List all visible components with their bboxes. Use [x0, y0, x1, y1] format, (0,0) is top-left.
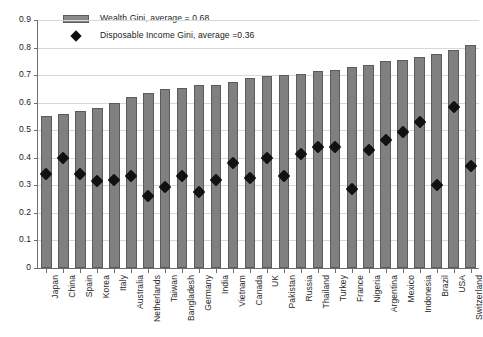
x-tick-mark [97, 269, 98, 273]
x-tick-mark [301, 269, 302, 273]
x-tick-label: Netherlands [152, 275, 162, 322]
x-tick-label: France [355, 275, 365, 302]
x-tick-mark [250, 269, 251, 273]
x-tick-label: Spain [84, 275, 94, 297]
y-tick-label: 0.2 [19, 207, 31, 217]
x-tick-label: Russia [304, 275, 314, 302]
x-axis-line [37, 268, 479, 269]
x-tick-mark [63, 269, 64, 273]
y-tick-label: 0.7 [19, 69, 31, 79]
x-tick-mark [80, 269, 81, 273]
x-tick-label: India [220, 275, 230, 294]
x-tick-mark [233, 269, 234, 273]
x-tick-mark [46, 269, 47, 273]
bar [126, 97, 137, 268]
y-tick-label: 0 [26, 262, 31, 272]
x-tick-mark [216, 269, 217, 273]
x-tick-mark [437, 269, 438, 273]
x-tick-label: China [67, 275, 77, 298]
bar [160, 89, 171, 268]
x-tick-label: Bangladesh [186, 275, 196, 321]
bar [465, 45, 476, 268]
x-tick-label: Korea [101, 275, 111, 298]
x-tick-label: Argentina [389, 275, 399, 312]
bar [448, 50, 459, 268]
bar [92, 108, 103, 268]
x-tick-label: Australia [135, 275, 145, 309]
x-tick-mark [267, 269, 268, 273]
y-tick-label: 0.6 [19, 97, 31, 107]
x-tick-mark [182, 269, 183, 273]
x-tick-mark [148, 269, 149, 273]
x-tick-mark [114, 269, 115, 273]
x-tick-mark [131, 269, 132, 273]
x-tick-label: Thailand [321, 275, 331, 308]
y-tick-label: 0.1 [19, 234, 31, 244]
y-tick-label: 0.4 [19, 152, 31, 162]
x-tick-mark [318, 269, 319, 273]
plot-area [38, 20, 479, 268]
y-tick-label: 0.3 [19, 179, 31, 189]
x-tick-label: Pakistan [287, 275, 297, 308]
x-tick-mark [199, 269, 200, 273]
y-tick-label: 0.9 [19, 14, 31, 24]
x-tick-label: Brazil [440, 275, 450, 297]
bar [143, 93, 154, 268]
x-tick-mark [335, 269, 336, 273]
bar [262, 76, 273, 268]
bar [228, 82, 239, 268]
x-tick-mark [369, 269, 370, 273]
y-tick-label: 0.5 [19, 124, 31, 134]
x-tick-mark [403, 269, 404, 273]
x-tick-mark [284, 269, 285, 273]
x-tick-label: Turkey [338, 275, 348, 301]
x-tick-label: Nigeria [372, 275, 382, 303]
x-tick-label: Italy [118, 275, 128, 291]
bar [330, 70, 341, 268]
x-tick-label: Japan [50, 275, 60, 299]
bar [296, 74, 307, 268]
x-tick-label: Vietnam [237, 275, 247, 307]
x-tick-mark [471, 269, 472, 273]
x-tick-label: USA [457, 275, 467, 293]
x-tick-label: Indonesia [423, 275, 433, 313]
x-tick-mark [454, 269, 455, 273]
x-tick-label: Taiwan [169, 275, 179, 302]
chart-page: Wealth Gini, average = 0.68 Disposable I… [0, 0, 483, 337]
x-tick-mark [420, 269, 421, 273]
bar [397, 60, 408, 268]
x-tick-label: UK [270, 275, 280, 287]
x-tick-mark [165, 269, 166, 273]
x-tick-label: Switzerland [474, 275, 483, 320]
bar [41, 116, 52, 268]
bar [58, 114, 69, 268]
bar [313, 71, 324, 268]
x-tick-mark [386, 269, 387, 273]
x-tick-mark [352, 269, 353, 273]
x-tick-label: Mexico [406, 275, 416, 303]
y-tick-mark [34, 268, 38, 269]
x-tick-label: Germany [203, 275, 213, 311]
y-tick-label: 0.8 [19, 42, 31, 52]
bar [194, 85, 205, 268]
bar [75, 111, 86, 268]
bar [414, 57, 425, 268]
bar [363, 65, 374, 268]
bar [347, 67, 358, 268]
x-tick-label: Canada [254, 275, 264, 305]
bar [380, 61, 391, 268]
bar [431, 54, 442, 268]
